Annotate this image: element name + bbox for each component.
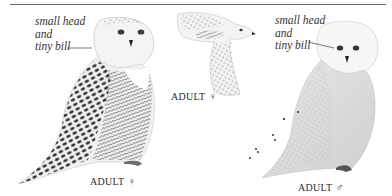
caption-label: ADULT — [298, 182, 332, 193]
annotation-right-line-2: and — [275, 27, 325, 40]
annotation-left: small head and tiny bill — [35, 15, 85, 53]
annotation-right-line-1: small head — [275, 14, 325, 27]
male-symbol-icon: ♂ — [335, 181, 344, 193]
female-symbol-icon: ♀ — [208, 90, 217, 102]
annotation-right-line-3: tiny bill — [275, 39, 325, 52]
caption-label: ADULT — [90, 176, 124, 187]
caption-perched-male: ADULT♂ — [298, 181, 344, 193]
caption-perched-female: ADULT♀ — [90, 175, 136, 187]
caption-label: ADULT — [171, 91, 205, 102]
caption-flying-female: ADULT♀ — [171, 90, 217, 102]
annotation-right: small head and tiny bill — [275, 14, 325, 52]
annotation-left-line-2: and — [35, 28, 85, 41]
annotation-left-line-3: tiny bill — [35, 40, 85, 53]
female-symbol-icon: ♀ — [127, 175, 136, 187]
flying-female-owl — [177, 12, 256, 95]
annotation-left-line-1: small head — [35, 15, 85, 28]
